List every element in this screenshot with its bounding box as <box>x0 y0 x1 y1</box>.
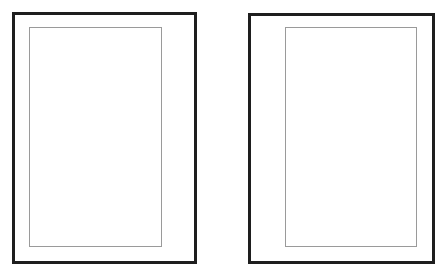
right-inner-panel <box>285 27 417 247</box>
left-inner-panel <box>29 27 162 247</box>
